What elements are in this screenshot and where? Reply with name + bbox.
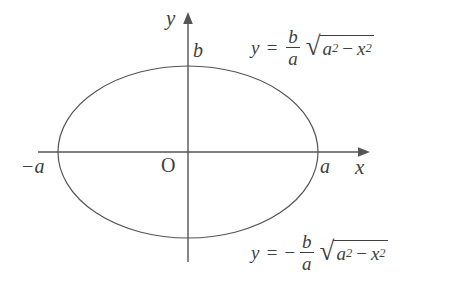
equation-upper-equals: = xyxy=(265,38,278,57)
tick-label-minus-a: −a xyxy=(21,156,45,176)
x-axis-label: x xyxy=(355,157,364,178)
fraction-numerator: b xyxy=(286,27,300,47)
tick-label-a: a xyxy=(320,156,330,176)
equation-lower: y = − b a √ a2 − x2 xyxy=(250,232,388,273)
y-axis-label: y xyxy=(166,8,175,29)
fraction-denominator: a xyxy=(300,253,314,273)
ellipse-diagram xyxy=(0,0,462,295)
y-axis-arrowhead xyxy=(183,12,193,24)
radical-sign-icon: √ xyxy=(306,34,321,60)
radicand-term-1: a xyxy=(323,39,333,58)
equation-lower-radical: √ a2 − x2 xyxy=(320,240,388,266)
radicand-term-1: a xyxy=(336,244,346,263)
equation-upper-fraction: b a xyxy=(286,27,300,68)
equation-lower-lhs: y xyxy=(251,243,259,262)
radicand-operator: − xyxy=(356,244,367,263)
radicand-term-2: x xyxy=(357,39,365,58)
equation-upper-radicand: a2 − x2 xyxy=(320,35,374,61)
fraction-denominator: a xyxy=(286,48,300,68)
equation-lower-equals: = xyxy=(265,243,278,262)
equation-lower-radicand: a2 − x2 xyxy=(333,240,387,266)
equation-lower-fraction: b a xyxy=(300,232,314,273)
equation-upper-radical: √ a2 − x2 xyxy=(306,35,374,61)
tick-label-b: b xyxy=(193,40,203,60)
radical-sign-icon: √ xyxy=(320,239,335,265)
equation-lower-sign: − xyxy=(283,243,296,262)
equation-upper: y = b a √ a2 − x2 xyxy=(250,27,374,68)
origin-label: O xyxy=(161,155,175,175)
equation-upper-lhs: y xyxy=(251,38,259,57)
radicand-operator: − xyxy=(342,39,353,58)
fraction-numerator: b xyxy=(300,232,314,252)
radicand-term-2: x xyxy=(371,244,379,263)
